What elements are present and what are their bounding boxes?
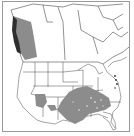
florida-outline [103,112,116,130]
range-southeast [57,86,111,124]
range-southwest [35,94,57,111]
range-atlantic-coast [114,75,118,89]
range-pacific-northwest [12,16,37,60]
map-frame [2,1,130,132]
range-map [3,2,130,132]
